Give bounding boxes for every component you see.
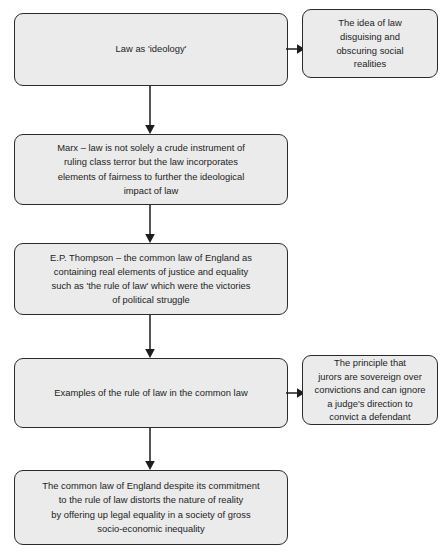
connector-examples-to-conclusion [142,428,158,471]
node-marx-ideological-impact-label: Marx – law is not solely a crude instrum… [15,141,287,198]
node-law-as-ideology[interactable]: Law as 'ideology' [14,13,288,86]
node-common-law-distorts-reality-label: The common law of England despite its co… [15,479,287,536]
node-idea-of-law-disguising[interactable]: The idea of law disguising and obscuring… [302,9,438,78]
node-jurors-sovereign-principle-label: The principle that jurors are sovereign … [303,356,437,424]
node-examples-rule-of-law[interactable]: Examples of the rule of law in the commo… [14,358,288,428]
node-common-law-distorts-reality[interactable]: The common law of England despite its co… [14,470,288,545]
node-ep-thompson-rule-of-law[interactable]: E.P. Thompson – the common law of Englan… [14,243,288,315]
node-ep-thompson-rule-of-law-label: E.P. Thompson – the common law of Englan… [15,251,287,308]
connector-ideology-to-marx [142,86,158,135]
node-jurors-sovereign-principle[interactable]: The principle that jurors are sovereign … [302,355,438,425]
node-marx-ideological-impact[interactable]: Marx – law is not solely a crude instrum… [14,134,288,205]
flowchart-canvas: Law as 'ideology' · · · · · Law as 'ideo… [0,0,446,553]
node-idea-of-law-disguising-label: The idea of law disguising and obscuring… [303,16,437,70]
connector-thompson-to-examples [142,315,158,359]
node-examples-rule-of-law-label: Examples of the rule of law in the commo… [15,386,287,400]
node-law-as-ideology-label: Law as 'ideology' [15,42,287,56]
connector-marx-to-thompson [142,205,158,244]
